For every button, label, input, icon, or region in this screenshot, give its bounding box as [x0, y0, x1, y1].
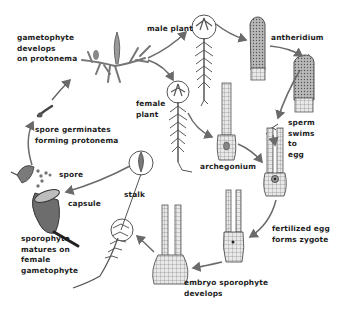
label-female-plant: female plant: [136, 99, 165, 120]
arrow-antheridium-to-release: [270, 46, 302, 56]
arrow-zygote-to-embryo: [193, 262, 222, 268]
label-spore-germinates: spore germinates forming protonema: [35, 125, 118, 146]
label-archegonium: archegonium: [200, 162, 256, 173]
zygote-archegonium-illustration: [223, 190, 243, 262]
female-plant-illustration: [167, 81, 192, 172]
germinating-spore-illustration: [38, 106, 53, 118]
arrow-spore-to-germination: [28, 122, 33, 165]
label-spore: spore: [59, 170, 83, 181]
moss-life-cycle-diagram: gametophyte develops on protonema male p…: [0, 0, 347, 314]
arrow-male-to-antheridium: [216, 24, 246, 40]
male-plant-illustration: [192, 15, 216, 106]
spores-illustration: [36, 169, 51, 187]
arrow-embryo-to-sporophyte: [137, 236, 154, 252]
fertilization-archegonium-illustration: [264, 128, 287, 196]
arrow-female-to-archegonium: [188, 113, 212, 137]
label-capsule: capsule: [68, 199, 101, 210]
arrow-germination-to-protonema: [52, 80, 70, 100]
arrow-archegonium-to-fertilization: [238, 144, 262, 162]
archegonium-illustration: [217, 83, 236, 160]
label-embryo-sporophyte: embryo sporophyte develops: [184, 278, 268, 299]
embryo-sporophyte-illustration: [153, 205, 188, 284]
protonema-gametophyte-illustration: [82, 32, 150, 82]
label-stalk: stalk: [124, 190, 145, 201]
label-sporophyte-matures: sporophyte matures on female gametophyte: [21, 234, 78, 276]
sporophyte-on-gametophyte-illustration: [73, 151, 153, 288]
arrow-protonema-to-male: [148, 32, 186, 58]
antheridium-illustration: [250, 17, 265, 80]
label-fertilized-egg: fertilized egg forms zygote: [272, 224, 330, 245]
label-sperm-swims-to-egg: sperm swims to egg: [288, 118, 315, 160]
label-antheridium: antheridium: [271, 33, 324, 44]
mature-antheridium-illustration: [294, 54, 314, 112]
arrow-protonema-to-female: [148, 60, 173, 80]
label-gametophyte-develops: gametophyte develops on protonema: [17, 33, 77, 65]
label-male-plant: male plant: [147, 24, 193, 35]
